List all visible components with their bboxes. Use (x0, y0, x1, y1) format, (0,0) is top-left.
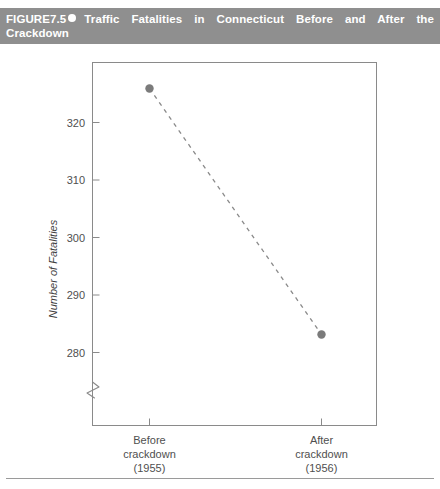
y-tick-label-310: 310 (67, 174, 85, 186)
chart-container: 320 310 300 290 280 Number of Fatalities… (0, 44, 440, 489)
line-chart: 320 310 300 290 280 Number of Fatalities… (0, 44, 440, 489)
x-axis-ticks (150, 419, 322, 426)
y-axis-tick-labels: 320 310 300 290 280 (67, 117, 85, 359)
filled-circle-bullet-icon (68, 14, 76, 22)
y-tick-label-320: 320 (67, 117, 85, 129)
figure-caption-line-1: FIGURE 7.5 Traffic Fatalities in Connect… (6, 12, 434, 26)
trend-line-dashed (150, 89, 322, 335)
figure-title-part-2: Crackdown (6, 27, 69, 39)
x-label-after-line3: (1956) (306, 462, 338, 474)
y-tick-label-290: 290 (67, 289, 85, 301)
plot-frame (93, 63, 377, 426)
y-tick-label-300: 300 (67, 232, 85, 244)
x-label-before-line2: crackdown (123, 448, 176, 460)
data-point-after-1956[interactable] (317, 330, 325, 338)
x-label-before-line1: Before (133, 434, 165, 446)
y-axis-title: Number of Fatalities (47, 219, 59, 318)
figure-number: 7.5 (50, 12, 66, 26)
figure-title-part-1: Traffic Fatalities in Connecticut Before… (84, 12, 434, 26)
figure-caption-line-2: Crackdown (6, 26, 434, 40)
data-point-before-1955[interactable] (145, 84, 153, 92)
x-label-after-line1: After (310, 434, 334, 446)
y-tick-label-280: 280 (67, 347, 85, 359)
figure-caption-bar: FIGURE 7.5 Traffic Fatalities in Connect… (0, 8, 440, 44)
footer-divider (6, 478, 434, 479)
y-axis-ticks (93, 123, 100, 353)
figure-word: FIGURE (6, 12, 50, 26)
x-label-after-line2: crackdown (295, 448, 348, 460)
x-axis-tick-labels: Before crackdown (1955) After crackdown … (123, 434, 348, 474)
x-label-before-line3: (1955) (134, 462, 166, 474)
figure-caption-text: FIGURE 7.5 Traffic Fatalities in Connect… (6, 12, 434, 40)
